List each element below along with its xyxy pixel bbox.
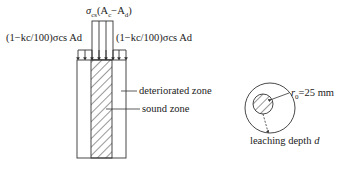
- depth-text: leaching depth: [250, 135, 312, 146]
- right-load-label: (1−kc/100)σcs Ad: [116, 33, 192, 44]
- sound-zone-label: sound zone: [142, 104, 190, 115]
- radius-label: r0=25 mm: [291, 88, 334, 101]
- cross-section: [245, 83, 295, 133]
- leaching-depth-label: leaching depth d: [250, 136, 319, 147]
- radius-value: =25 mm: [299, 87, 334, 98]
- center-load-block: [92, 21, 113, 60]
- center-load-label: σcs(Ac−Ad): [86, 6, 132, 19]
- distributed-load-arrows: [78, 50, 126, 59]
- deteriorated-zone-label: deteriorated zone: [139, 86, 212, 97]
- inner-circle: [253, 94, 273, 114]
- paren-open: (A: [97, 5, 108, 16]
- depth-symbol: d: [314, 135, 319, 146]
- paren-close: ): [128, 5, 132, 16]
- minus-ad: −A: [111, 5, 125, 16]
- left-load-label: (1−kc/100)σcs Ad: [6, 33, 82, 44]
